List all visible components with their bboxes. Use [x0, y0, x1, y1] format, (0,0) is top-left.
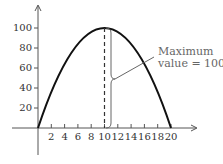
- y-tick-labels: 100 80 60 40 20: [13, 22, 32, 113]
- x-tick-label: 16: [138, 131, 151, 142]
- y-ticks: [34, 28, 38, 108]
- x-tick-label: 14: [125, 131, 138, 142]
- brace-icon: [106, 28, 115, 128]
- x-tick-label: 2: [48, 131, 54, 142]
- x-tick-labels: 2 4 6 8 10 12 14 16 18 20: [48, 131, 177, 142]
- x-tick-label: 8: [88, 131, 94, 142]
- x-tick-label: 4: [61, 131, 67, 142]
- x-tick-label: 18: [151, 131, 164, 142]
- y-tick-label: 20: [19, 102, 32, 113]
- y-tick-label: 80: [19, 42, 32, 53]
- annotation-label-line2: value = 100: [157, 57, 223, 70]
- x-tick-label: 10: [98, 131, 111, 142]
- y-tick-label: 60: [19, 62, 32, 73]
- chart: 100 80 60 40 20 2 4 6 8 10 12 14 16 18 2…: [0, 0, 223, 164]
- x-tick-label: 20: [165, 131, 178, 142]
- x-tick-label: 6: [75, 131, 81, 142]
- y-tick-label: 100: [13, 22, 32, 33]
- y-tick-label: 40: [19, 82, 32, 93]
- annotation-leader: [115, 57, 154, 79]
- x-tick-label: 12: [111, 131, 124, 142]
